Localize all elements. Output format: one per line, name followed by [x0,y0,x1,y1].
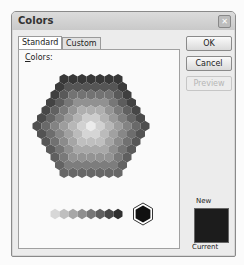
tab-standard[interactable]: Standard [18,36,62,49]
window-title: Colors [18,15,53,26]
standard-panel: Colors: [18,49,180,249]
cancel-button[interactable]: Cancel [186,56,232,71]
close-icon[interactable]: ✕ [218,15,231,28]
ok-button[interactable]: OK [186,36,232,51]
title-bar[interactable]: Colors ✕ [12,12,235,30]
colors-label: Colors: [25,53,53,62]
color-preview-swatch [194,208,229,243]
color-hexagon-palette[interactable] [27,68,172,245]
current-label: Current [192,243,218,251]
tab-custom[interactable]: Custom [62,37,101,49]
colors-dialog: Colors ✕ Standard Custom Colors: OK Canc… [11,11,236,257]
preview-button[interactable]: Preview [186,76,232,91]
new-label: New [196,197,211,205]
